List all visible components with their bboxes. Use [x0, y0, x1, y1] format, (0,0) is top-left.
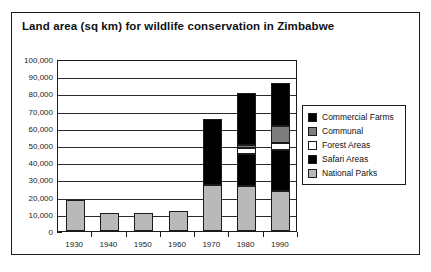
legend-swatch-icon	[308, 127, 317, 136]
y-axis-tick-label: 50,000	[11, 142, 53, 151]
x-axis-tick-mark	[126, 232, 127, 237]
x-axis-ticks	[57, 232, 297, 238]
bar-segment	[271, 191, 290, 231]
y-axis-tick-label: 100,000	[11, 56, 53, 65]
legend-item: National Parks	[308, 166, 400, 180]
x-axis-tick-label: 1970	[202, 240, 220, 249]
bar-stack	[203, 59, 222, 231]
bar-segment	[203, 185, 222, 231]
bar-segment	[271, 83, 290, 126]
legend-swatch-icon	[308, 169, 317, 178]
x-axis-tick-label: 1960	[168, 240, 186, 249]
legend-item-label: Safari Areas	[322, 154, 368, 164]
bar-stack	[66, 59, 85, 231]
bar-segment	[237, 93, 256, 145]
bar-segment	[271, 126, 290, 143]
chart-title: Land area (sq km) for wildlife conservat…	[22, 20, 322, 32]
legend-item-label: Commercial Farms	[322, 112, 394, 122]
bar-segment	[237, 154, 256, 187]
bar-segment	[203, 119, 222, 184]
x-axis-tick-label: 1940	[100, 240, 118, 249]
y-axis-tick-label: 70,000	[11, 107, 53, 116]
y-axis-tick-label: 90,000	[11, 73, 53, 82]
bar-stack	[169, 59, 188, 231]
y-axis-tick-label: 60,000	[11, 124, 53, 133]
bar-stack	[271, 59, 290, 231]
bar-segment	[169, 211, 188, 231]
y-axis-tick-label: 0	[11, 228, 53, 237]
legend-swatch-icon	[308, 141, 317, 150]
legend-swatch-icon	[308, 113, 317, 122]
bar-segment	[237, 186, 256, 231]
bar-segment	[271, 143, 290, 150]
bar-stack	[237, 59, 256, 231]
plot-area	[57, 60, 297, 232]
chart-legend: Commercial FarmsCommunalForest AreasSafa…	[302, 105, 406, 185]
legend-item: Safari Areas	[308, 152, 400, 166]
x-axis-tick-label: 1980	[237, 240, 255, 249]
x-axis-tick-label: 1930	[65, 240, 83, 249]
x-axis-tick-mark	[160, 232, 161, 237]
x-axis-tick-mark	[91, 232, 92, 237]
bar-segment	[237, 148, 256, 153]
y-axis-tick-label: 20,000	[11, 193, 53, 202]
legend-item: Communal	[308, 124, 400, 138]
bar-segment	[134, 213, 153, 231]
legend-item-label: National Parks	[322, 168, 377, 178]
y-axis-labels: 100,00090,00080,00070,00060,00050,00040,…	[8, 60, 53, 232]
chart-figure: Land area (sq km) for wildlife conservat…	[0, 0, 431, 272]
bar-segment	[100, 213, 119, 231]
x-axis-tick-mark	[194, 232, 195, 237]
bar-segment	[66, 200, 85, 231]
y-axis-tick-label: 30,000	[11, 176, 53, 185]
y-axis-tick-label: 40,000	[11, 159, 53, 168]
bar-stack	[100, 59, 119, 231]
x-axis-tick-mark	[297, 232, 298, 237]
x-axis-tick-label: 1990	[271, 240, 289, 249]
x-axis-tick-label: 1950	[134, 240, 152, 249]
x-axis-tick-mark	[263, 232, 264, 237]
legend-item: Commercial Farms	[308, 110, 400, 124]
y-axis-tick-label: 10,000	[11, 210, 53, 219]
legend-swatch-icon	[308, 155, 317, 164]
legend-item: Forest Areas	[308, 138, 400, 152]
legend-item-label: Communal	[322, 126, 363, 136]
bar-segment	[237, 145, 256, 148]
bar-stack	[134, 59, 153, 231]
x-axis-tick-mark	[228, 232, 229, 237]
x-axis-labels: 1930194019501960197019801990	[57, 240, 297, 254]
y-axis-tick-label: 80,000	[11, 90, 53, 99]
bar-segment	[271, 150, 290, 191]
legend-item-label: Forest Areas	[322, 140, 370, 150]
